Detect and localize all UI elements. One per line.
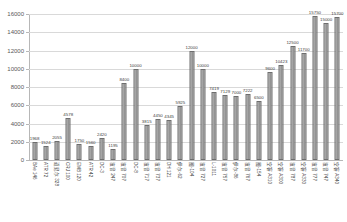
y-axis-tick-label: 4000 — [11, 121, 24, 127]
bar[interactable] — [335, 17, 340, 160]
bar[interactable] — [77, 144, 82, 160]
bar-slot: 4345 — [164, 14, 175, 160]
x-axis-label-slot: 空客 A340 — [332, 162, 343, 222]
x-axis-label-slot: 波音 717 — [141, 162, 152, 222]
bar[interactable] — [88, 146, 93, 160]
x-axis-label-slot: CRJ 100 — [63, 162, 74, 222]
bar-value-label: 3815 — [142, 119, 152, 124]
bar[interactable] — [256, 101, 261, 160]
y-axis-tick — [26, 160, 29, 161]
bar-slot: 10000 — [130, 14, 141, 160]
bar[interactable] — [133, 69, 138, 160]
x-axis-tick-label: 空客 A310 — [267, 162, 272, 184]
bar-value-label: 11700 — [298, 47, 310, 52]
bar[interactable] — [111, 149, 116, 160]
bar-slot: 10423 — [276, 14, 287, 160]
bar-value-label: 4345 — [164, 114, 174, 119]
bars-layer: 1968152420554578175015602420119584001000… — [29, 14, 343, 160]
bar-slot: 6500 — [253, 14, 264, 160]
bar-slot: 1560 — [85, 14, 96, 160]
x-axis-tick-label: DC-3 — [99, 162, 104, 173]
x-axis-tick-label: 空客 A340 — [335, 162, 340, 184]
bar-slot: 9600 — [265, 14, 276, 160]
bar-slot: 5925 — [175, 14, 186, 160]
x-axis-label-slot: BAe 146 — [29, 162, 40, 222]
bar-value-label: 6500 — [254, 95, 264, 100]
x-axis-tick-label: L-1011 — [211, 162, 216, 176]
x-axis-label-slot: 波音 247 — [108, 162, 119, 222]
bar-slot: 7000 — [231, 14, 242, 160]
x-axis-tick-label: DH 121 — [166, 162, 171, 178]
bar[interactable] — [144, 125, 149, 160]
x-axis-tick-label: 道尼尔 328 — [54, 162, 59, 186]
bar-slot: 8400 — [119, 14, 130, 160]
bar[interactable] — [290, 46, 295, 160]
x-axis-label-slot: L-1011 — [208, 162, 219, 222]
bar-value-label: 15700 — [331, 11, 343, 16]
bar-slot: 7419 — [208, 14, 219, 160]
bar-slot: 3815 — [141, 14, 152, 160]
x-axis-label-slot: DH 121 — [164, 162, 175, 222]
x-axis-label-slot: DC-3 — [96, 162, 107, 222]
bar[interactable] — [279, 65, 284, 160]
bar-value-label: 9600 — [265, 66, 275, 71]
bar[interactable] — [189, 51, 194, 161]
x-axis-tick-label: ATR 72 — [43, 162, 48, 177]
x-axis-tick-label: 图-104 — [189, 162, 194, 176]
bar[interactable] — [178, 106, 183, 160]
bar[interactable] — [324, 23, 329, 160]
bar[interactable] — [245, 94, 250, 160]
bar-value-label: 4578 — [63, 112, 73, 117]
bar-value-label: 2420 — [97, 132, 107, 137]
bar-slot: 1750 — [74, 14, 85, 160]
bar[interactable] — [66, 118, 71, 160]
bar[interactable] — [200, 69, 205, 160]
bar-value-label: 10423 — [275, 59, 287, 64]
x-axis-tick-label: 波音 777 — [312, 162, 317, 181]
x-axis-tick-label: BAe 146 — [32, 162, 37, 180]
x-axis-label-slot: 图-104 — [186, 162, 197, 222]
x-axis-label-slot: DC-8 — [130, 162, 141, 222]
bar-slot: 15700 — [332, 14, 343, 160]
bar[interactable] — [212, 92, 217, 160]
bar-value-label: 1524 — [41, 140, 51, 145]
bar[interactable] — [223, 95, 228, 160]
x-axis-label-slot: 波音 707 — [119, 162, 130, 222]
x-axis-tick-label: 伊尔-62 — [178, 162, 183, 179]
x-axis-label-slot: 波音 727 — [197, 162, 208, 222]
x-axis-label-slot: ATR 42 — [85, 162, 96, 222]
bar[interactable] — [32, 142, 37, 160]
bar-value-label: 10000 — [197, 63, 209, 68]
y-axis-labels: 0200040006000800010000120001400016000 — [0, 14, 27, 160]
x-axis-tick-label: 波音 727 — [200, 162, 205, 181]
bar-slot: 4578 — [63, 14, 74, 160]
bar-slot: 2420 — [96, 14, 107, 160]
x-axis-tick-label: ATR 42 — [88, 162, 93, 177]
x-axis-label-slot: 伊尔-62 — [175, 162, 186, 222]
bar-slot: 1968 — [29, 14, 40, 160]
bar[interactable] — [268, 72, 273, 160]
y-axis-tick-label: 8000 — [11, 84, 24, 90]
bar-value-label: 1560 — [86, 140, 96, 145]
bar[interactable] — [234, 96, 239, 160]
bar[interactable] — [122, 83, 127, 160]
bar[interactable] — [99, 138, 104, 160]
bar-value-label: 1750 — [75, 138, 85, 143]
bar-slot: 11700 — [298, 14, 309, 160]
bar-slot: 10000 — [197, 14, 208, 160]
bar[interactable] — [312, 16, 317, 160]
x-axis-label-slot: EMB 120 — [74, 162, 85, 222]
bar[interactable] — [55, 141, 60, 160]
bar-value-label: 7000 — [232, 90, 242, 95]
bar[interactable] — [43, 146, 48, 160]
bar[interactable] — [155, 119, 160, 160]
x-axis-tick-label: 图-154 — [256, 162, 261, 176]
bar-value-label: 5925 — [175, 100, 185, 105]
bar-value-label: 4450 — [153, 113, 163, 118]
y-axis-tick-label: 14000 — [7, 29, 24, 35]
bar[interactable] — [301, 53, 306, 160]
bar[interactable] — [167, 120, 172, 160]
bar-slot: 2055 — [51, 14, 62, 160]
x-axis-tick-label: 波音 757 — [222, 162, 227, 181]
bar-value-label: 7222 — [243, 88, 253, 93]
